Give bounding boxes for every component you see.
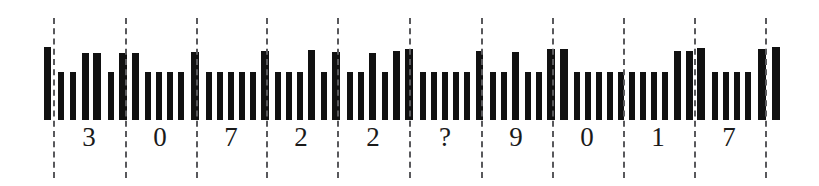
digit-label-8: 1: [643, 124, 673, 151]
digit-label-9: 7: [714, 124, 744, 151]
digit-label-4: 2: [358, 124, 388, 151]
digit-label-3: 2: [286, 124, 316, 151]
barcode-figure: 30722?9017: [0, 0, 819, 186]
digit-label-5: ?: [430, 124, 460, 151]
digit-label-0: 3: [74, 124, 104, 151]
digit-label-1: 0: [145, 124, 175, 151]
barcode-digit-labels: 30722?9017: [0, 0, 819, 186]
digit-label-6: 9: [501, 124, 531, 151]
digit-label-2: 7: [216, 124, 246, 151]
digit-label-7: 0: [572, 124, 602, 151]
